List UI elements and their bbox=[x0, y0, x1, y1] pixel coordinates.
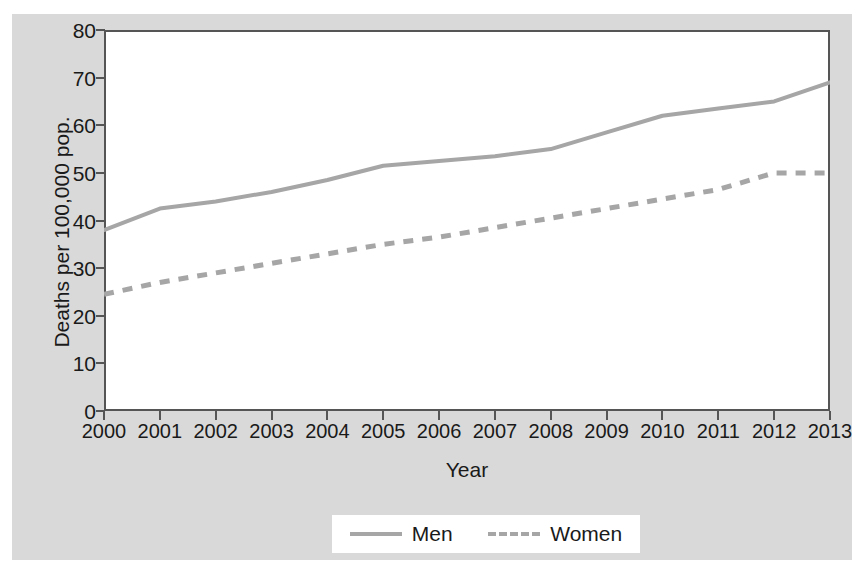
x-tick-mark bbox=[773, 411, 775, 420]
x-tick-mark bbox=[103, 411, 105, 420]
x-tick-mark bbox=[326, 411, 328, 420]
x-tick-mark bbox=[271, 411, 273, 420]
x-tick-label: 2013 bbox=[808, 420, 853, 443]
x-tick-label: 2008 bbox=[529, 420, 574, 443]
legend-entry-men: Men bbox=[350, 522, 453, 546]
plot-lines bbox=[104, 30, 830, 411]
chart-figure: 01020304050607080 Deaths per 100,000 pop… bbox=[0, 0, 864, 580]
y-tick-mark bbox=[96, 172, 105, 174]
x-tick-label: 2000 bbox=[82, 420, 127, 443]
x-tick-mark bbox=[661, 411, 663, 420]
legend-swatch-solid-line-icon bbox=[350, 532, 402, 536]
x-tick-label: 2009 bbox=[584, 420, 629, 443]
x-axis-ticks: 2000200120022003200420052006200720082009… bbox=[104, 420, 830, 450]
x-axis-label: Year bbox=[104, 458, 830, 482]
x-tick-label: 2011 bbox=[697, 420, 740, 443]
y-tick-mark bbox=[96, 124, 105, 126]
legend-label-men: Men bbox=[412, 522, 453, 546]
legend-entry-women: Women bbox=[488, 522, 622, 546]
x-tick-mark bbox=[159, 411, 161, 420]
y-axis-label: Deaths per 100,000 pop. bbox=[50, 52, 74, 412]
y-tick-mark bbox=[96, 29, 105, 31]
x-tick-mark bbox=[382, 411, 384, 420]
x-tick-label: 2004 bbox=[305, 420, 350, 443]
legend-label-women: Women bbox=[550, 522, 622, 546]
x-tick-label: 2001 bbox=[138, 420, 183, 443]
y-tick-label: 80 bbox=[50, 20, 96, 41]
x-tick-label: 2003 bbox=[249, 420, 294, 443]
y-tick-mark bbox=[96, 77, 105, 79]
y-tick-mark bbox=[96, 220, 105, 222]
series-line-men bbox=[104, 82, 830, 230]
x-tick-label: 2006 bbox=[417, 420, 462, 443]
x-tick-mark bbox=[717, 411, 719, 420]
series-line-women bbox=[104, 173, 830, 294]
y-tick-mark bbox=[96, 315, 105, 317]
y-tick-mark bbox=[96, 362, 105, 364]
x-tick-label: 2010 bbox=[640, 420, 685, 443]
x-tick-mark bbox=[829, 411, 831, 420]
x-tick-label: 2012 bbox=[752, 420, 797, 443]
x-tick-mark bbox=[606, 411, 608, 420]
x-tick-mark bbox=[494, 411, 496, 420]
legend-swatch-dashed-line-icon bbox=[488, 532, 540, 536]
chart-legend: Men Women bbox=[332, 515, 640, 553]
x-tick-mark bbox=[438, 411, 440, 420]
y-tick-mark bbox=[96, 267, 105, 269]
x-tick-label: 2002 bbox=[193, 420, 238, 443]
x-tick-label: 2005 bbox=[361, 420, 406, 443]
x-tick-mark bbox=[550, 411, 552, 420]
x-tick-label: 2007 bbox=[473, 420, 518, 443]
x-tick-mark bbox=[215, 411, 217, 420]
